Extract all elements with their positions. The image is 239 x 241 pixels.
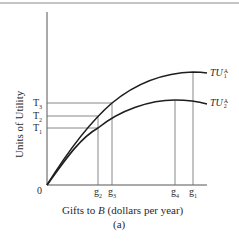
figure-caption: (a): [113, 219, 125, 230]
x-tick-g3: g3: [108, 187, 116, 199]
y-tick-t3: T3: [33, 98, 42, 110]
x-tick-g1: g1: [189, 187, 197, 199]
curve-tu1: [47, 72, 207, 185]
curve-tu2: [47, 100, 207, 185]
series-label-tu1: TUA1: [210, 68, 228, 79]
chart-figure: Units of Utility T3 T2 T1 0 g2 g3 g4 g1 …: [0, 0, 239, 241]
y-tick-t1: T1: [33, 123, 42, 135]
origin-label: 0: [37, 186, 42, 196]
series-label-tu2: TUA2: [210, 98, 228, 109]
x-axis-label: Gifts to B (dollars per year): [62, 205, 183, 216]
y-axis-label: Units of Utility: [14, 91, 25, 158]
x-tick-g4: g4: [171, 187, 179, 199]
x-tick-g2: g2: [94, 187, 102, 199]
